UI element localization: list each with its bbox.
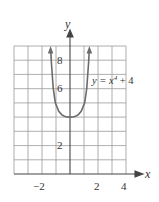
axes (14, 30, 143, 177)
y-axis-arrow-icon (67, 30, 73, 37)
y-axis-label: y (64, 17, 71, 31)
tick-label-y-6: 6 (57, 82, 63, 94)
x-axis-arrow-icon (135, 171, 143, 177)
tick-label-y-8: 8 (57, 54, 63, 66)
tick-label-x-2: 2 (94, 180, 100, 192)
tick-label-x-4: 4 (121, 180, 127, 192)
tick-label-y-2: 2 (57, 139, 63, 151)
x-axis-label: x (144, 167, 151, 181)
curve-left-arrow-icon (48, 46, 54, 54)
curve-right-arrow-icon (87, 46, 93, 54)
function-graph: y x −2 2 4 8 6 2 y = x4 + 4 (0, 0, 159, 202)
tick-label-x-neg2: −2 (33, 180, 45, 192)
equation-label: y = x4 + 4 (91, 74, 134, 86)
